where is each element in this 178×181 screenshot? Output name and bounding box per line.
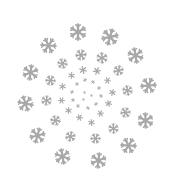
snowflake-icon bbox=[69, 23, 87, 41]
snowflake-icon bbox=[65, 107, 72, 114]
snowflake-icon bbox=[75, 82, 79, 86]
snowflake-icon bbox=[140, 77, 157, 94]
snowflake-icon bbox=[45, 75, 56, 86]
snowflake-icon bbox=[41, 95, 52, 106]
snowflake-icon bbox=[76, 114, 83, 121]
snowflake-icon bbox=[70, 90, 74, 94]
snowflake-icon bbox=[90, 94, 93, 97]
snowflake-icon bbox=[97, 110, 104, 117]
snowflake-icon bbox=[122, 85, 133, 96]
snowflake-icon bbox=[99, 94, 103, 98]
snowflake-icon bbox=[101, 28, 119, 46]
snowflake-icon bbox=[96, 52, 108, 64]
snowflake-icon bbox=[104, 77, 111, 84]
snowflake-icon bbox=[127, 47, 144, 64]
snowflake-icon bbox=[91, 80, 95, 84]
snowflake-icon bbox=[113, 65, 124, 76]
snowflake-icon bbox=[54, 148, 71, 165]
snowflake-icon bbox=[108, 123, 119, 134]
snowflake-icon bbox=[29, 127, 46, 144]
snowflake-icon bbox=[76, 104, 80, 108]
snowflake-icon bbox=[97, 86, 101, 90]
snowflake-icon bbox=[94, 102, 98, 106]
snowflake-icon bbox=[82, 98, 85, 101]
snowflake-icon bbox=[83, 91, 86, 94]
snowflake-icon bbox=[109, 89, 116, 96]
snowflake-icon bbox=[59, 83, 66, 90]
snowflake-icon bbox=[65, 131, 76, 142]
snowflake-icon bbox=[137, 112, 154, 129]
snowflake-icon bbox=[120, 137, 137, 154]
snowflake-icon bbox=[90, 152, 107, 169]
snowflake-icon bbox=[22, 64, 39, 81]
snowflake-icon bbox=[83, 78, 87, 82]
snowflake-icon bbox=[50, 115, 61, 126]
snowflake-icon bbox=[105, 100, 112, 107]
snowflake-icon bbox=[71, 98, 75, 102]
snowflake-icon bbox=[40, 37, 57, 54]
snowflake-icon bbox=[120, 107, 131, 118]
snowflake-icon bbox=[57, 58, 68, 69]
snowflake-icon bbox=[58, 97, 65, 104]
snowflake-spiral bbox=[0, 0, 178, 181]
snowflake-icon bbox=[88, 119, 95, 126]
snowflake-icon bbox=[17, 95, 34, 112]
snowflake-icon bbox=[68, 72, 75, 79]
snowflake-icon bbox=[79, 66, 87, 74]
snowflake-icon bbox=[75, 49, 87, 61]
snowflake-icon bbox=[86, 106, 90, 110]
snowflake-icon bbox=[90, 133, 101, 144]
snowflake-icon bbox=[93, 67, 101, 75]
